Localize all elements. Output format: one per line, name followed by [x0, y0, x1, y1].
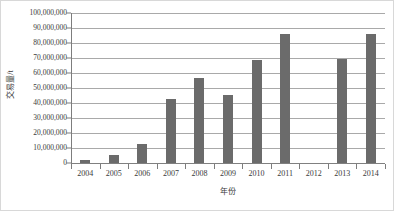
bars-layer	[71, 13, 385, 163]
x-axis-tick-label: 2004	[77, 169, 93, 179]
y-axis-tick-mark	[66, 13, 71, 14]
bar-2008	[194, 78, 204, 163]
x-axis-tick-label: 2009	[220, 169, 236, 179]
y-axis-tick-label: 50,000,000	[33, 84, 67, 92]
bar-2009	[223, 95, 233, 163]
y-axis-tick-label: 80,000,000	[33, 39, 67, 47]
x-axis-tick-label: 2008	[191, 169, 207, 179]
y-axis-tick-labels: 010,000,00020,000,00030,000,00040,000,00…	[15, 13, 69, 163]
bar-2013	[337, 59, 347, 163]
bar-2004	[80, 160, 90, 163]
y-axis-tick-label: 60,000,000	[33, 69, 67, 77]
y-axis-tick-label: 40,000,000	[33, 99, 67, 107]
plot-area	[71, 13, 385, 163]
y-axis-tick-mark	[66, 28, 71, 29]
x-axis-tick-mark	[385, 164, 386, 169]
x-axis-tick-label: 2014	[363, 169, 379, 179]
y-axis-tick-label: 10,000,000	[33, 144, 67, 152]
bar-2005	[109, 155, 119, 163]
bar-2007	[166, 99, 176, 163]
y-axis-tick-mark	[66, 118, 71, 119]
bar-2006	[137, 144, 147, 164]
x-axis-tick-label: 2011	[277, 169, 293, 179]
y-axis-tick-mark	[66, 73, 71, 74]
bar-2011	[280, 34, 290, 163]
bar-2010	[252, 60, 262, 164]
y-axis-tick-mark	[66, 148, 71, 149]
y-axis-tick-label: 100,000,000	[30, 9, 68, 17]
x-axis-tick-label: 2007	[163, 169, 179, 179]
y-axis-line	[71, 13, 72, 164]
x-axis-tick-label: 2012	[306, 169, 322, 179]
y-axis-tick-label: 30,000,000	[33, 114, 67, 122]
x-axis-tick-label: 2010	[249, 169, 265, 179]
x-axis-tick-label: 2005	[106, 169, 122, 179]
y-axis-tick-label: 70,000,000	[33, 54, 67, 62]
y-axis-tick-mark	[66, 133, 71, 134]
x-axis-tick-labels: 2004200520062007200820092010201120122013…	[71, 169, 385, 183]
x-axis-tick-label: 2006	[134, 169, 150, 179]
y-axis-tick-mark	[66, 103, 71, 104]
y-axis-tick-label: 20,000,000	[33, 129, 67, 137]
bar-chart-figure: 交易量/t 010,000,00020,000,00030,000,00040,…	[0, 0, 394, 211]
y-axis-tick-mark	[66, 43, 71, 44]
x-axis-title: 年份	[71, 185, 385, 196]
y-axis-tick-mark	[66, 58, 71, 59]
y-axis-tick-mark	[66, 88, 71, 89]
x-axis-tick-label: 2013	[334, 169, 350, 179]
y-axis-tick-label: 90,000,000	[33, 24, 67, 32]
bar-2014	[366, 34, 376, 163]
y-axis-title-text: 交易量/t	[4, 70, 15, 98]
